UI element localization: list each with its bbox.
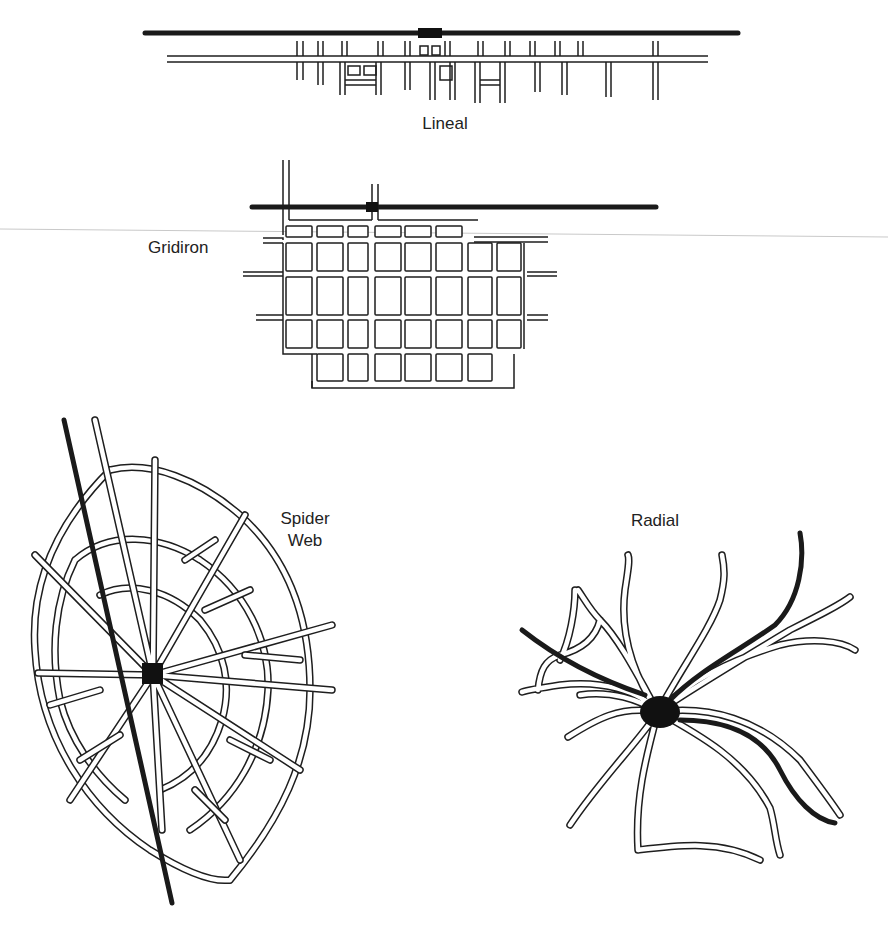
street-patterns-figure: Lineal Gridiron Spider Web Radial <box>0 0 888 944</box>
spider-web-label-line2: Web <box>270 530 340 551</box>
gridiron-blocks <box>286 226 521 381</box>
lineal-south-streets <box>297 62 658 103</box>
gridiron-hub <box>366 202 378 212</box>
lineal-north-streets <box>297 41 658 56</box>
radial-pattern <box>522 533 855 860</box>
radial-hub <box>640 696 680 728</box>
lineal-pattern <box>145 28 738 103</box>
radial-railroad-northeast <box>670 533 802 700</box>
lineal-label: Lineal <box>410 113 480 134</box>
spider-web-hub <box>142 663 163 684</box>
gridiron-pattern <box>243 160 656 388</box>
gridiron-label: Gridiron <box>148 237 208 258</box>
spider-web-pattern <box>34 420 332 903</box>
radial-label: Radial <box>610 510 700 531</box>
spider-web-label-line1: Spider <box>270 508 340 529</box>
lineal-hub <box>418 28 442 38</box>
radial-streets <box>522 555 855 860</box>
diagram-svg <box>0 0 888 944</box>
